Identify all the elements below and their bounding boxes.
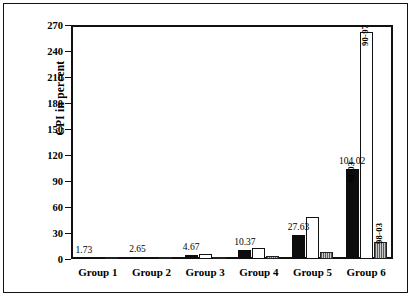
bar-black xyxy=(131,257,144,259)
bar-gray xyxy=(213,257,226,259)
x-tick-label: Group 1 xyxy=(78,266,117,278)
y-tick-mark xyxy=(65,25,71,26)
y-tick-mark xyxy=(65,233,71,234)
bar-group: 1.73 xyxy=(77,25,118,259)
x-axis-tick-labels: Group 1Group 2Group 3Group 4Group 5Group… xyxy=(71,266,393,286)
bar-white xyxy=(91,257,104,259)
y-tick-mark xyxy=(65,181,71,182)
y-tick-label: 120 xyxy=(47,150,63,161)
y-tick-label: 270 xyxy=(47,20,63,31)
bar-white xyxy=(252,248,265,259)
y-tick-label: 30 xyxy=(53,228,64,239)
bar-white xyxy=(145,257,158,259)
x-tick-label: Group 6 xyxy=(347,266,386,278)
bar-gray xyxy=(320,252,333,259)
bar-black xyxy=(292,235,305,259)
bar-group: 4.67 xyxy=(185,25,226,259)
y-tick-mark xyxy=(65,129,71,130)
y-tick-label: 210 xyxy=(47,72,63,83)
bar-group: 10.37 xyxy=(238,25,279,259)
bar-white xyxy=(199,254,212,259)
bar-value-label: 27.63 xyxy=(288,222,309,232)
plot-area: 0306090120150180210240270 1.732.654.6710… xyxy=(71,25,393,259)
bar-gray xyxy=(159,257,172,259)
bar-group: 90-0390-9798-03104.02 xyxy=(346,25,387,259)
y-tick-mark xyxy=(65,51,71,52)
bar-value-label: 1.73 xyxy=(76,245,93,255)
bar-annotation: 90-97 xyxy=(360,25,370,46)
y-tick-label: 60 xyxy=(53,202,64,213)
y-tick-label: 90 xyxy=(53,176,64,187)
x-tick-label: Group 3 xyxy=(186,266,225,278)
bar-value-label: 10.37 xyxy=(234,237,255,247)
bar-group: 2.65 xyxy=(131,25,172,259)
bar-group: 27.63 xyxy=(292,25,333,259)
y-axis-line xyxy=(71,25,73,259)
bar-value-label: 2.65 xyxy=(129,244,146,254)
y-tick-label: 240 xyxy=(47,46,63,57)
y-tick-mark xyxy=(65,103,71,104)
y-tick-mark xyxy=(65,207,71,208)
bar-gray xyxy=(266,256,279,259)
y-tick-mark xyxy=(65,77,71,78)
chart-figure: CPI in percent 0306090120150180210240270… xyxy=(3,3,408,293)
x-tick-label: Group 2 xyxy=(132,266,171,278)
y-tick-label: 180 xyxy=(47,98,63,109)
bar-gray xyxy=(374,242,387,259)
bar-value-label: 4.67 xyxy=(183,242,200,252)
bar-annotation: 98-03 xyxy=(374,222,384,243)
y-tick-mark xyxy=(65,155,71,156)
x-tick-label: Group 5 xyxy=(293,266,332,278)
y-tick-label: 0 xyxy=(58,254,63,265)
bar-black xyxy=(185,255,198,259)
bar-gray xyxy=(105,257,118,259)
plot-right-rule xyxy=(391,25,393,259)
bar-value-label: 104.02 xyxy=(339,156,365,166)
bar-black xyxy=(77,257,90,259)
y-tick-label: 150 xyxy=(47,124,63,135)
bar-white xyxy=(360,32,373,259)
x-tick-label: Group 4 xyxy=(239,266,278,278)
bar-black xyxy=(238,250,251,259)
y-tick-mark xyxy=(65,259,71,260)
